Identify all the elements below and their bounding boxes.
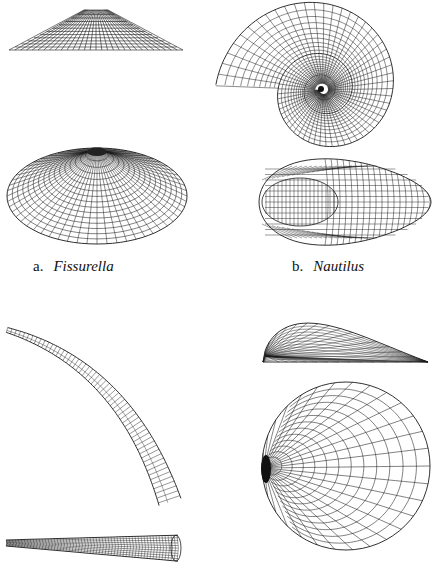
panel-letter: b. bbox=[292, 258, 303, 274]
panel-letter: a. bbox=[33, 258, 43, 274]
species-name: Nautilus bbox=[313, 258, 364, 274]
nautilus-apertural-view-wireframe bbox=[259, 159, 431, 245]
panel-label-b: b.Nautilus bbox=[292, 258, 364, 275]
bivalve-top-view-wireframe bbox=[261, 382, 430, 550]
species-name: Fissurella bbox=[53, 258, 113, 274]
tusk-shell-tube-view-wireframe bbox=[6, 535, 181, 561]
bivalve-side-view-wireframe bbox=[263, 323, 428, 362]
shell-wireframe-figure: a.Fissurella b.Nautilus bbox=[0, 0, 438, 581]
fissurella-oblique-view-wireframe bbox=[7, 147, 187, 244]
fissurella-side-view-wireframe bbox=[9, 10, 183, 50]
nautilus-spiral-view-wireframe bbox=[216, 2, 394, 146]
tusk-shell-side-view-wireframe bbox=[6, 328, 181, 506]
panel-label-a: a.Fissurella bbox=[33, 258, 114, 275]
